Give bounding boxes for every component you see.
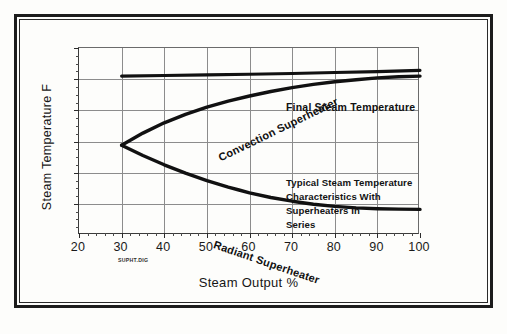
y-axis-title: Steam Temperature F — [40, 62, 54, 232]
x-tick-label: 100 — [408, 240, 429, 254]
x-tick-major — [420, 233, 421, 238]
x-axis-title: Steam Output % — [78, 275, 419, 290]
x-tick-label: 80 — [327, 240, 341, 254]
x-tick-label: 70 — [284, 240, 298, 254]
x-tick-label: 60 — [241, 240, 255, 254]
annotation-line-1: Typical Steam Temperature — [286, 176, 436, 190]
chart-page: Steam Temperature F — [0, 0, 507, 334]
x-tick-label: 40 — [156, 240, 170, 254]
drawing-filestamp: SUPHT.DIG — [118, 257, 148, 263]
annotation-line-2: Characteristics With Superheaters In — [286, 190, 436, 218]
chart-annotation-block: Typical Steam Temperature Characteristic… — [286, 176, 436, 232]
x-tick-label: 30 — [113, 240, 127, 254]
x-tick-label: 90 — [369, 240, 383, 254]
annotation-line-3: Series — [286, 218, 436, 232]
x-tick-label: 50 — [199, 240, 213, 254]
curve-final-steam-temperature — [122, 70, 420, 76]
x-tick-label: 20 — [71, 240, 85, 254]
plot-area: Final Steam Temperature Convection Super… — [78, 47, 419, 234]
